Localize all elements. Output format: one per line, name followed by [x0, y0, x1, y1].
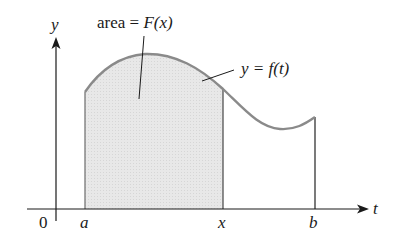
area-label-prefix: area = [97, 13, 143, 32]
origin-label: 0 [39, 213, 48, 232]
y-axis-label: y [49, 15, 59, 34]
tick-label-a: a [80, 213, 89, 232]
tick-label-x: x [217, 213, 226, 232]
area-diagram: y t 0 a x b area = F(x) y = f(t) [0, 0, 403, 233]
tick-label-b: b [309, 213, 318, 232]
shaded-area-region [85, 54, 223, 209]
curve-label: y = f(t) [239, 59, 290, 78]
area-label: area = F(x) [97, 13, 173, 32]
area-label-func: F(x) [142, 13, 173, 32]
x-axis-label: t [373, 199, 379, 218]
